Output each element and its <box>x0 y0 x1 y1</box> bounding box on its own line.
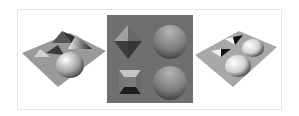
left-surface-render <box>20 25 108 90</box>
right-surface-render <box>193 25 279 90</box>
middle-shaded-image <box>107 15 193 103</box>
